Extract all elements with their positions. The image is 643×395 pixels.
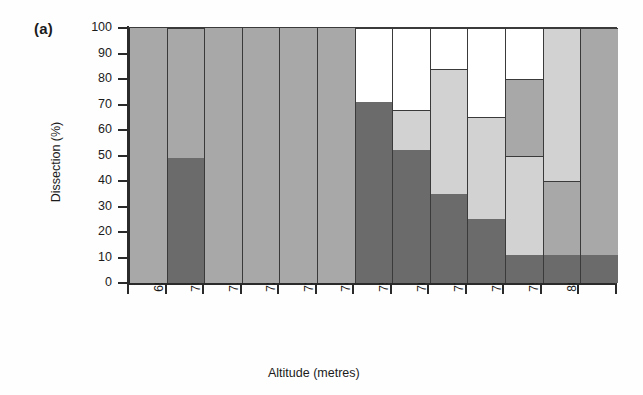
bar-segment-medium — [243, 28, 280, 283]
bar-segment-medium — [318, 28, 355, 283]
bar-segment-white — [356, 28, 393, 102]
bar-730-740 — [280, 28, 318, 283]
plot-area — [128, 28, 618, 283]
bar->810 — [581, 28, 618, 283]
y-tick-mark — [118, 231, 128, 233]
bar-segment-medium — [168, 28, 205, 158]
y-tick-label-text: 70 — [78, 97, 112, 111]
bar-segment-medium — [280, 28, 317, 283]
bar-segment-medium — [205, 28, 242, 283]
bar-group — [130, 28, 618, 283]
y-tick-label: 50 — [78, 148, 112, 162]
y-tick-label-text: 60 — [78, 122, 112, 136]
bar-segment-dark — [393, 150, 430, 283]
bar-segment-medium — [581, 28, 618, 255]
y-tick-label: 90 — [78, 46, 112, 60]
y-tick-mark — [118, 104, 128, 106]
y-tick-label: 70 — [78, 97, 112, 111]
bar-segment-medium — [544, 181, 581, 255]
bar-740-750 — [318, 28, 356, 283]
y-tick-mark — [118, 129, 128, 131]
bar-segment-dark — [468, 219, 505, 283]
bar-750-760 — [356, 28, 394, 283]
bar-800-810 — [544, 28, 582, 283]
bar-780-790 — [468, 28, 506, 283]
bar-segment-dark — [506, 255, 543, 283]
y-tick-mark — [118, 206, 128, 208]
y-tick-mark — [118, 282, 128, 284]
bar-segment-dark — [168, 158, 205, 283]
figure-panel-a: (a) Dissection (%) 010203040506070809010… — [0, 0, 643, 395]
bar-790-800 — [506, 28, 544, 283]
bar-segment-white — [468, 28, 505, 117]
panel-label: (a) — [34, 20, 53, 37]
y-tick-label-text: 100 — [78, 20, 112, 34]
y-tick-mark — [118, 155, 128, 157]
bar-760-770 — [393, 28, 431, 283]
y-tick-label-text: 30 — [78, 199, 112, 213]
y-tick-label: 100 — [78, 20, 112, 34]
bar-segment-medium — [130, 28, 167, 283]
y-tick-mark — [118, 257, 128, 259]
bar-segment-white — [393, 28, 430, 110]
bar-710-720 — [205, 28, 243, 283]
y-tick-label-text: 50 — [78, 148, 112, 162]
bar-690-700 — [130, 28, 168, 283]
y-tick-label-text: 80 — [78, 71, 112, 85]
y-tick-label: 40 — [78, 173, 112, 187]
y-tick-label: 60 — [78, 122, 112, 136]
y-tick-label: 80 — [78, 71, 112, 85]
y-tick-label-text: 0 — [78, 275, 112, 289]
bar-segment-dark — [581, 255, 618, 283]
y-tick-label: 10 — [78, 250, 112, 264]
bar-720-730 — [243, 28, 281, 283]
bar-segment-light — [468, 117, 505, 219]
y-tick-mark — [118, 78, 128, 80]
bar-segment-light — [544, 28, 581, 181]
y-tick-label: 20 — [78, 224, 112, 238]
x-tick-mark — [127, 285, 129, 294]
y-tick-label-text: 10 — [78, 250, 112, 264]
bar-segment-light — [506, 156, 543, 255]
y-tick-mark — [118, 53, 128, 55]
bar-segment-white — [431, 28, 468, 69]
y-tick-label: 0 — [78, 275, 112, 289]
bar-segment-dark — [356, 102, 393, 283]
bar-700-710 — [168, 28, 206, 283]
y-tick-label-text: 40 — [78, 173, 112, 187]
y-tick-mark — [118, 180, 128, 182]
x-axis-title: Altitude (metres) — [268, 366, 360, 380]
y-tick-label: 30 — [78, 199, 112, 213]
bar-segment-dark — [544, 255, 581, 283]
y-tick-label-text: 20 — [78, 224, 112, 238]
bar-segment-white — [506, 28, 543, 79]
y-tick-label-text: 90 — [78, 46, 112, 60]
bar-segment-dark — [431, 194, 468, 283]
bar-segment-light — [393, 110, 430, 151]
y-axis-title: Dissection (%) — [49, 62, 63, 262]
y-tick-mark — [118, 27, 128, 29]
bar-770-780 — [431, 28, 469, 283]
bar-segment-medium — [506, 79, 543, 156]
bar-segment-light — [431, 69, 468, 194]
